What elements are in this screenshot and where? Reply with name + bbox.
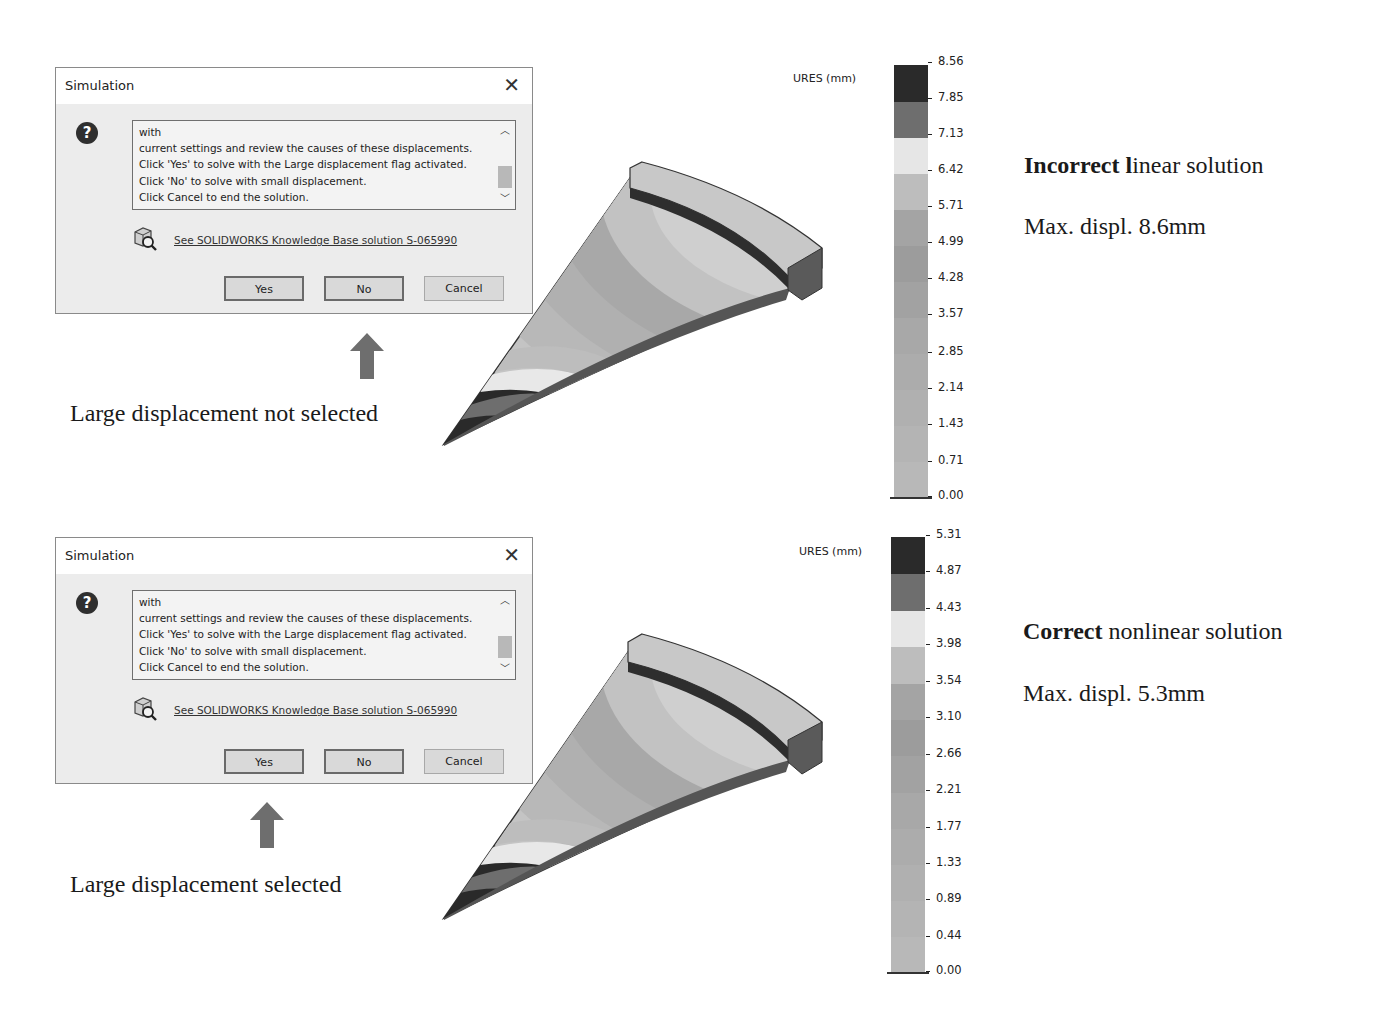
legend-band [894, 65, 928, 102]
up-arrow-icon [350, 333, 384, 379]
legend-tick: 0.71 [938, 453, 964, 467]
legend-tick: 1.77 [936, 819, 962, 833]
legend-band [891, 937, 925, 973]
message-line: current settings and review the causes o… [139, 140, 489, 156]
legend-band [891, 901, 925, 937]
knowledge-base-link[interactable]: See SOLIDWORKS Knowledge Base solution S… [174, 704, 457, 716]
result-title-rest: nonlinear solution [1103, 618, 1283, 644]
legend-band [891, 756, 925, 793]
legend-tick: 3.10 [936, 709, 962, 723]
legend-band [891, 611, 925, 647]
message-line: Click 'No' to solve with small displacem… [139, 643, 489, 659]
color-legend [894, 65, 928, 498]
result-title-bold: Incorrect l [1024, 152, 1132, 178]
scrollbar[interactable]: ︿ ﹀ [495, 591, 515, 679]
yes-button[interactable]: Yes [224, 276, 304, 301]
legend-band [894, 390, 928, 426]
legend-band [894, 210, 928, 246]
message-line: Click Cancel to end the solution. [139, 659, 489, 675]
legend-band [894, 246, 928, 282]
yes-button[interactable]: Yes [224, 749, 304, 774]
legend-tick: 4.28 [938, 270, 964, 284]
blade-model-render [430, 160, 850, 460]
message-text: with current settings and review the cau… [139, 594, 489, 675]
message-line: with [139, 124, 489, 140]
panel-linear: Simulation ✕ ? with current settings and… [0, 0, 1378, 515]
legend-tick: 1.43 [938, 416, 964, 430]
legend-tick: 3.54 [936, 673, 962, 687]
message-line: current settings and review the causes o… [139, 610, 489, 626]
scroll-up-icon[interactable]: ︿ [495, 593, 515, 609]
legend-band [891, 865, 925, 901]
knowledge-base-link[interactable]: See SOLIDWORKS Knowledge Base solution S… [174, 234, 457, 246]
result-title-rest: inear solution [1132, 152, 1263, 178]
legend-tick: 4.99 [938, 234, 964, 248]
legend-tick: 0.00 [936, 963, 962, 977]
legend-band [891, 574, 925, 611]
legend-tick: 0.89 [936, 891, 962, 905]
legend-tick: 2.85 [938, 344, 964, 358]
legend-band [891, 793, 925, 829]
legend-tick: 4.43 [936, 600, 962, 614]
knowledge-base-icon [132, 226, 158, 252]
legend-band [894, 426, 928, 462]
legend-tick: 3.98 [936, 636, 962, 650]
legend-band [894, 138, 928, 174]
result-title: Incorrect linear solution [1024, 152, 1264, 179]
up-arrow-icon [250, 802, 284, 848]
legend-tick: 0.00 [938, 488, 964, 502]
message-textbox[interactable]: with current settings and review the cau… [132, 590, 516, 680]
result-max-displacement: Max. displ. 8.6mm [1024, 213, 1206, 240]
message-line: with [139, 594, 489, 610]
legend-tick: 7.85 [938, 90, 964, 104]
result-max-displacement: Max. displ. 5.3mm [1023, 680, 1205, 707]
close-icon[interactable]: ✕ [503, 544, 520, 566]
legend-band [894, 354, 928, 390]
question-icon: ? [76, 122, 98, 144]
scroll-thumb[interactable] [498, 636, 512, 658]
dialog-title: Simulation [65, 78, 134, 93]
legend-band [894, 102, 928, 138]
legend-tick: 4.87 [936, 563, 962, 577]
legend-band [894, 318, 928, 354]
cancel-button[interactable]: Cancel [424, 749, 504, 774]
knowledge-base-icon [132, 696, 158, 722]
close-icon[interactable]: ✕ [503, 74, 520, 96]
caption: Large displacement not selected [70, 400, 378, 427]
legend-label: URES (mm) [793, 72, 856, 85]
message-line: Click 'Yes' to solve with the Large disp… [139, 626, 489, 642]
legend-band [891, 684, 925, 720]
caption: Large displacement selected [70, 871, 341, 898]
legend-tick: 8.56 [938, 54, 964, 68]
dialog-titlebar: Simulation ✕ [56, 538, 532, 574]
simulation-dialog: Simulation ✕ ? with current settings and… [55, 537, 533, 784]
legend-tick: 2.66 [936, 746, 962, 760]
legend-tick: 2.14 [938, 380, 964, 394]
result-title: Correct nonlinear solution [1023, 618, 1282, 645]
legend-tick: 7.13 [938, 126, 964, 140]
legend-tick: 2.21 [936, 782, 962, 796]
legend-label: URES (mm) [799, 545, 862, 558]
no-button[interactable]: No [324, 749, 404, 774]
scroll-down-icon[interactable]: ﹀ [495, 661, 515, 677]
dialog-title: Simulation [65, 548, 134, 563]
legend-band [894, 462, 928, 498]
legend-band [891, 537, 925, 574]
legend-tick: 6.42 [938, 162, 964, 176]
legend-band [894, 174, 928, 210]
legend-band [891, 647, 925, 684]
legend-tick: 0.44 [936, 928, 962, 942]
legend-tick: 1.33 [936, 855, 962, 869]
result-title-bold: Correct [1023, 618, 1103, 644]
scroll-up-icon[interactable]: ︿ [495, 123, 515, 139]
color-legend [891, 537, 925, 973]
legend-band [891, 829, 925, 865]
dialog-titlebar: Simulation ✕ [56, 68, 532, 104]
legend-band [894, 282, 928, 318]
legend-band [891, 720, 925, 756]
legend-baseline [890, 497, 932, 499]
legend-tick: 5.31 [936, 527, 962, 541]
no-button[interactable]: No [324, 276, 404, 301]
question-icon: ? [76, 592, 98, 614]
legend-baseline [887, 972, 929, 974]
